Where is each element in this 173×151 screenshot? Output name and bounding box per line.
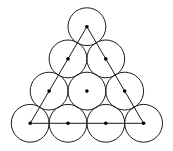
center-dot	[85, 25, 89, 29]
center-dot	[47, 89, 51, 93]
center-dot	[104, 122, 108, 126]
circle-packing-diagram	[0, 0, 173, 151]
center-dot	[104, 57, 108, 61]
center-dot	[28, 122, 32, 126]
center-dot	[123, 89, 127, 93]
triangle-outline	[30, 27, 143, 124]
center-dot	[66, 57, 70, 61]
center-dot	[85, 89, 89, 93]
center-dot	[66, 122, 70, 126]
center-dot	[142, 122, 146, 126]
